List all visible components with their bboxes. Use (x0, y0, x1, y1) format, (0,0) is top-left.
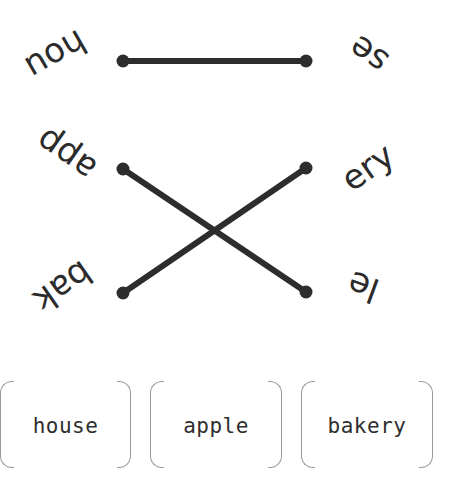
connector-hou-se[interactable] (117, 55, 313, 68)
card-border-right (117, 381, 131, 468)
right-node-dot-1[interactable] (300, 55, 313, 68)
left-node-dot-3[interactable] (117, 287, 130, 300)
card-border-left (150, 381, 164, 468)
card-border-right (419, 381, 433, 468)
card-border-left (301, 381, 315, 468)
answer-card-label: bakery (328, 414, 407, 438)
matching-board: hou app bak se ery le house apple bakery (0, 0, 460, 504)
right-node-dot-3[interactable] (300, 286, 313, 299)
left-node-dot-1[interactable] (117, 55, 130, 68)
right-node-dot-2[interactable] (300, 162, 313, 175)
answer-card-bakery[interactable]: bakery (301, 381, 433, 468)
answer-card-apple[interactable]: apple (150, 381, 282, 468)
left-node-dot-2[interactable] (117, 163, 130, 176)
answer-card-label: house (33, 414, 99, 438)
answer-card-label: apple (183, 414, 249, 438)
answer-card-house[interactable]: house (0, 381, 131, 468)
card-border-right (268, 381, 282, 468)
card-border-left (0, 381, 14, 468)
